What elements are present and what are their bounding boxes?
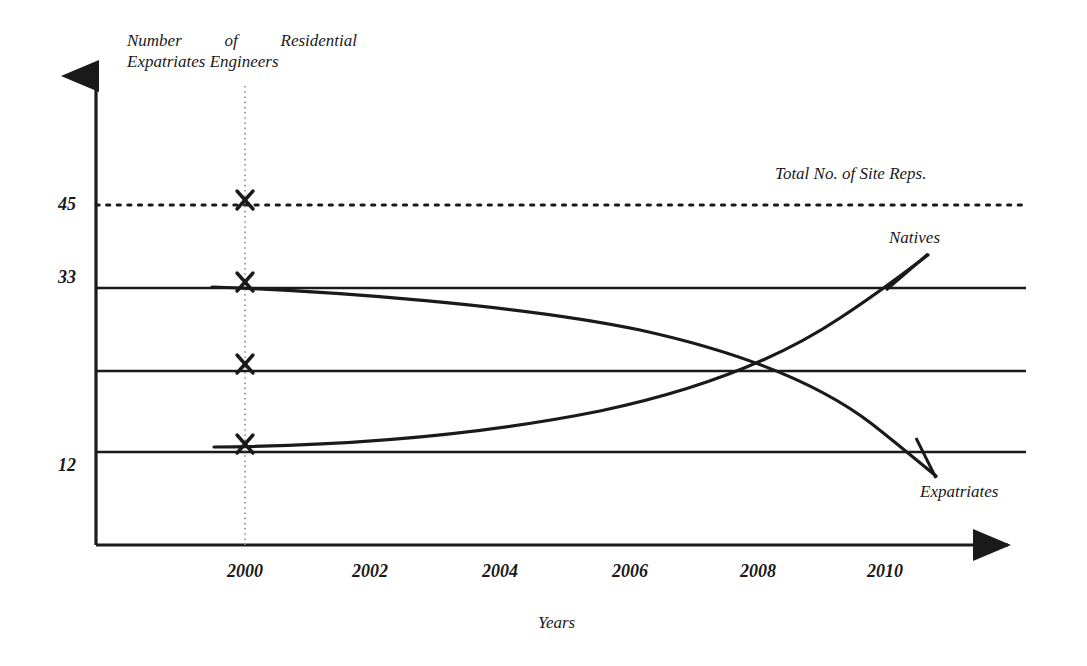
natives-curve	[214, 255, 928, 447]
expatriates-series-label: Expatriates	[920, 481, 998, 502]
x-tick-label-2008: 2008	[718, 560, 798, 583]
natives-series-label: Natives	[889, 227, 940, 248]
expatriates-leader-line	[916, 438, 936, 478]
y-tick-label-33: 33	[36, 266, 76, 289]
expatriates-curve	[212, 287, 936, 476]
y-tick-label-45: 45	[36, 193, 76, 216]
x-tick-label-2004: 2004	[460, 560, 540, 583]
y-axis-title-line2: Expatriates Engineers	[127, 51, 357, 72]
x-tick-label-2000: 2000	[205, 560, 285, 583]
total-site-reps-note: Total No. of Site Reps.	[775, 163, 926, 184]
natives-leader-line	[886, 254, 928, 290]
x-axis-title: Years	[538, 612, 575, 633]
x-tick-label-2002: 2002	[330, 560, 410, 583]
y-axis-title: Number of Residential Expatriates Engine…	[127, 30, 357, 73]
chart-page: Number of Residential Expatriates Engine…	[0, 0, 1087, 666]
x-tick-label-2010: 2010	[845, 560, 925, 583]
x-tick-label-2006: 2006	[590, 560, 670, 583]
y-axis-title-line1: Number of Residential	[127, 30, 357, 51]
y-tick-label-12: 12	[36, 454, 76, 477]
